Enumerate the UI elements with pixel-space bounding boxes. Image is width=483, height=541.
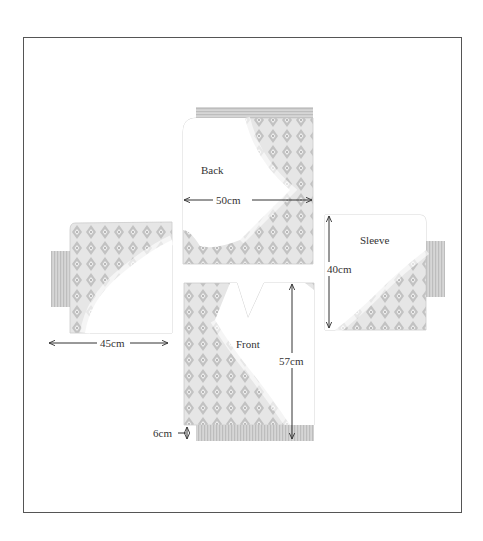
back-width-label: 50cm xyxy=(214,194,242,206)
sleeve-label: Sleeve xyxy=(358,234,391,246)
sleeve-width-label: 45cm xyxy=(98,337,126,349)
sleeve-height-label: 40cm xyxy=(325,263,353,275)
front-height-label: 57cm xyxy=(277,355,305,367)
back-label: Back xyxy=(199,164,226,176)
front-label: Front xyxy=(234,338,262,350)
knitting-schematic xyxy=(0,0,483,541)
ribbing-height-label: 6cm xyxy=(151,427,174,439)
back-piece xyxy=(183,107,313,264)
left-sleeve-piece xyxy=(51,222,172,333)
